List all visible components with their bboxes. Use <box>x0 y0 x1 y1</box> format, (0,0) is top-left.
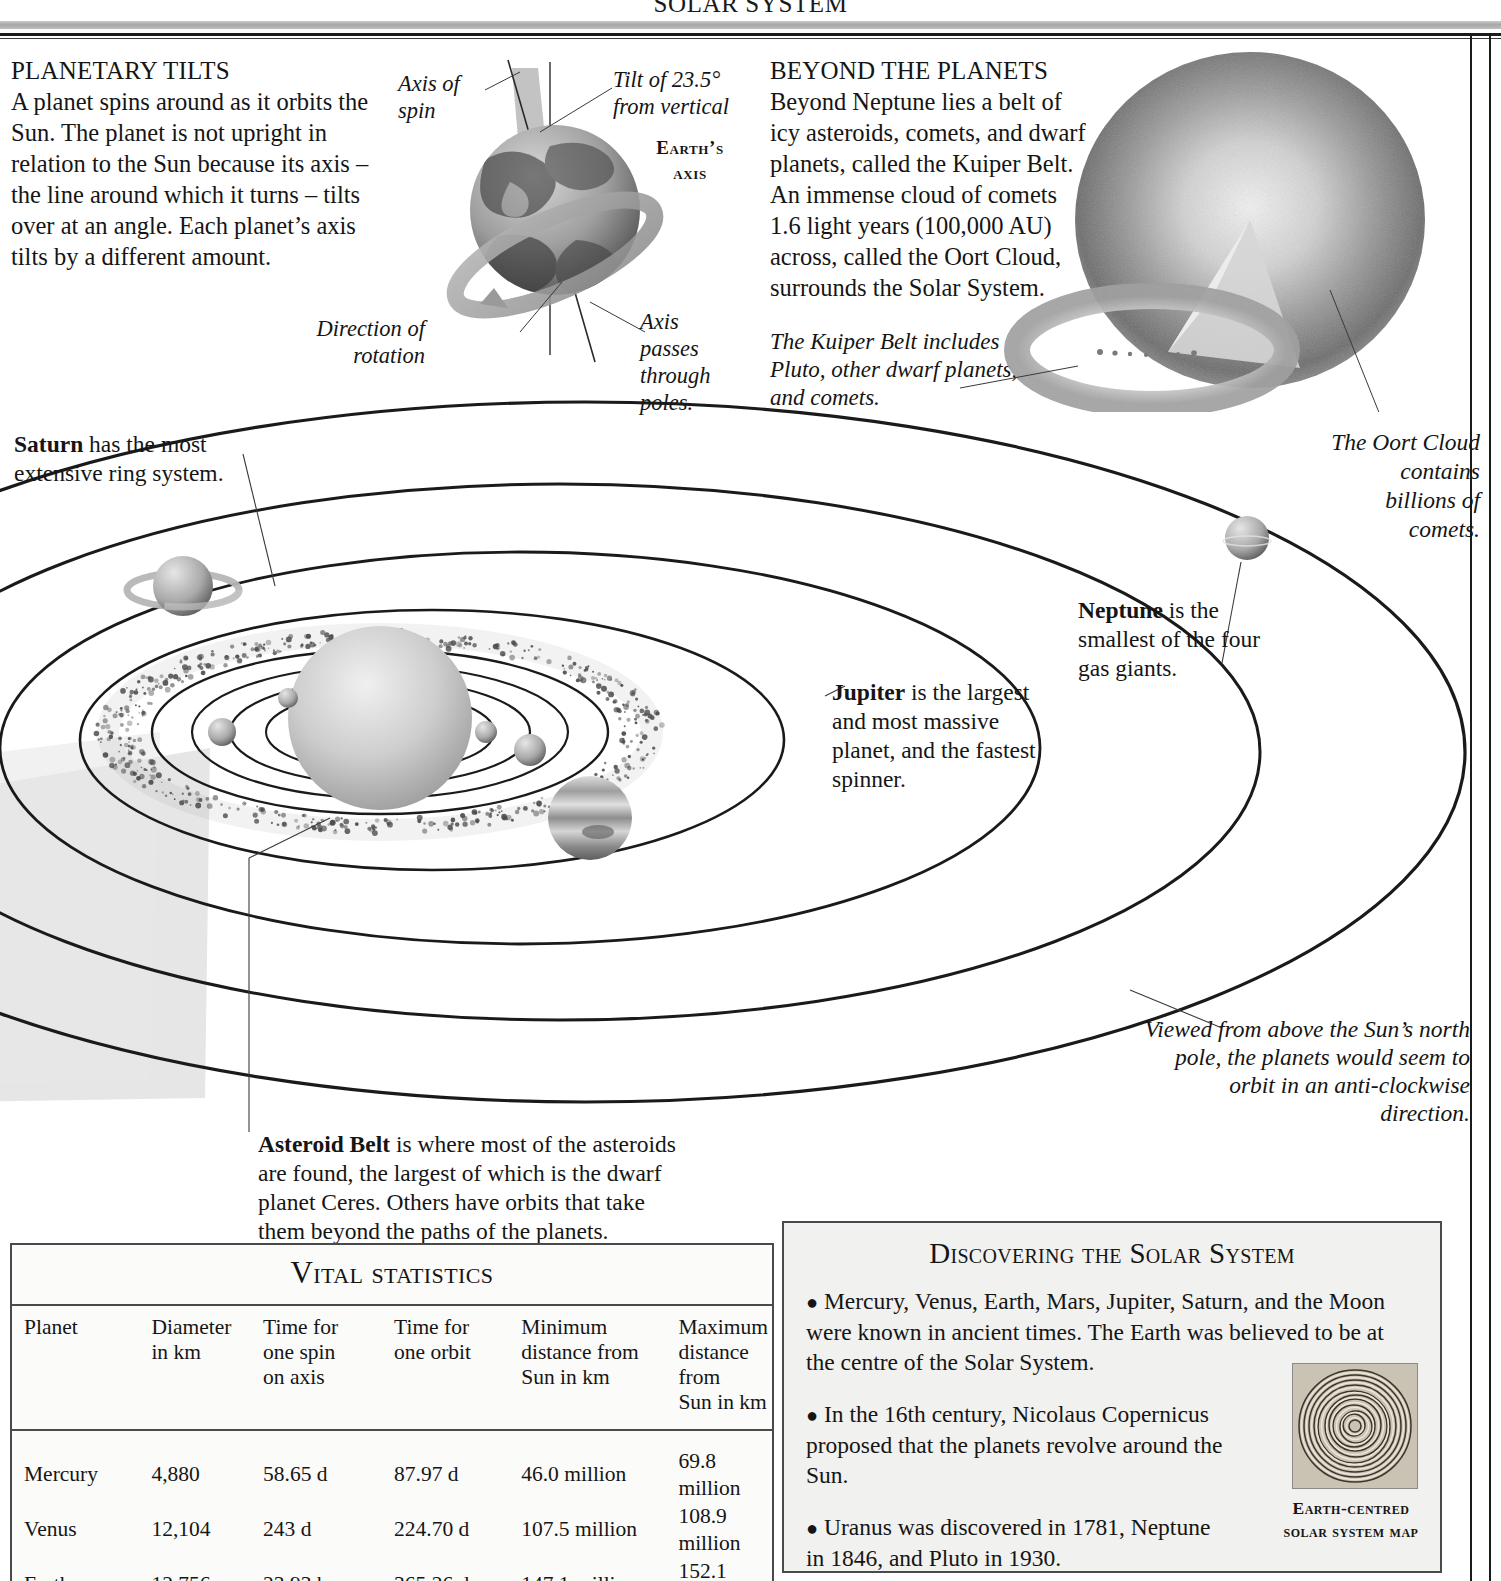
annotation-saturn-lead: Saturn <box>14 431 83 457</box>
col-header-min-distance: Minimumdistance fromSun in km <box>517 1306 674 1430</box>
bullet-dot-icon: ● <box>806 1517 818 1539</box>
table-cell: 23.93 h <box>259 1557 390 1581</box>
table-cell: 58.65 d <box>259 1430 390 1502</box>
annotation-neptune-lead: Neptune <box>1078 597 1163 623</box>
table-cell: 12,756 <box>147 1557 259 1581</box>
vital-statistics-panel: Vital statistics Planet Diameterin km Ti… <box>10 1243 774 1581</box>
col-header-line: Sun in km <box>521 1365 670 1390</box>
col-header-line: Diameter <box>151 1315 255 1340</box>
col-header-line: one spin <box>263 1340 386 1365</box>
vital-statistics-title: Vital statistics <box>12 1245 772 1306</box>
col-header-line: Time for <box>394 1315 513 1340</box>
discovering-bullet-2: ● In the 16th century, Nicolaus Copernic… <box>806 1399 1226 1490</box>
discovering-bullet-1-text: Mercury, Venus, Earth, Mars, Jupiter, Sa… <box>806 1288 1385 1375</box>
earth-centred-map-art <box>1293 1364 1417 1488</box>
page-title: SOLAR SYSTEM <box>0 0 1501 18</box>
col-header-orbit: Time forone orbit <box>390 1306 517 1430</box>
annotation-asteroid-belt: Asteroid Belt is where most of the aster… <box>258 1130 678 1246</box>
col-header-max-distance: Maximumdistance fromSun in km <box>674 1306 772 1430</box>
col-header-line: on axis <box>263 1365 386 1390</box>
table-cell: Mercury <box>12 1430 147 1502</box>
table-cell: 87.97 d <box>390 1430 517 1502</box>
annotation-jupiter: Jupiter is the largest and most massive … <box>832 678 1062 794</box>
poster-page: SOLAR SYSTEM PLANETARY TILTS A planet sp… <box>0 0 1501 1581</box>
col-header-line: Maximum <box>678 1315 768 1340</box>
label-tilt-23-5: Tilt of 23.5° from vertical <box>613 66 753 120</box>
vital-statistics-body: Mercury4,88058.65 d87.97 d46.0 million69… <box>12 1430 772 1581</box>
annotation-saturn: Saturn has the most extensive ring syste… <box>14 430 274 488</box>
table-cell: 46.0 million <box>517 1430 674 1502</box>
col-header-line: distance from <box>521 1340 670 1365</box>
page-border-right-outer <box>1489 33 1491 1581</box>
earth-centred-map-caption: Earth-centred solar system map <box>1276 1497 1426 1543</box>
table-cell: Venus <box>12 1502 147 1557</box>
table-cell: 243 d <box>259 1502 390 1557</box>
bullet-dot-icon: ● <box>806 1291 818 1313</box>
table-cell: 4,880 <box>147 1430 259 1502</box>
discovering-bullet-2-text: In the 16th century, Nicolaus Copernicus… <box>806 1401 1222 1488</box>
jupiter-body <box>548 776 632 860</box>
annotation-neptune: Neptune is the smallest of the four gas … <box>1078 596 1278 683</box>
table-cell: 365.26 d <box>390 1557 517 1581</box>
discovering-solar-system-panel: Discovering the Solar System ● Mercury, … <box>782 1221 1442 1573</box>
table-cell: 107.5 million <box>517 1502 674 1557</box>
table-cell: 224.70 d <box>390 1502 517 1557</box>
table-cell: 108.9 million <box>674 1502 772 1557</box>
table-cell: Earth <box>12 1557 147 1581</box>
col-header-line: Time for <box>263 1315 386 1340</box>
col-header-line: Sun in km <box>678 1390 768 1415</box>
col-header-line: one orbit <box>394 1340 513 1365</box>
neptune-body <box>1223 516 1271 560</box>
col-header-planet: Planet <box>12 1306 147 1430</box>
annotation-asteroid-belt-lead: Asteroid Belt <box>258 1131 390 1157</box>
col-header-diameter: Diameterin km <box>147 1306 259 1430</box>
table-cell: 147.1 million <box>517 1557 674 1581</box>
header-grey-rule <box>0 21 1501 29</box>
col-header-line: in km <box>151 1340 255 1365</box>
table-row: Venus12,104243 d224.70 d107.5 million108… <box>12 1502 772 1557</box>
table-cell: 69.8 million <box>674 1430 772 1502</box>
label-earths-axis: Earth’s axis <box>640 135 740 185</box>
col-header-line: Planet <box>24 1315 143 1340</box>
planetary-tilts-body: A planet spins around as it orbits the S… <box>11 86 386 272</box>
col-header-spin: Time forone spinon axis <box>259 1306 390 1430</box>
planetary-tilts-heading: PLANETARY TILTS <box>11 57 386 85</box>
annotation-jupiter-lead: Jupiter <box>832 679 905 705</box>
label-axis-of-spin: Axis of spin <box>398 70 488 124</box>
vital-statistics-head: Planet Diameterin km Time forone spinon … <box>12 1306 772 1430</box>
header-black-rule <box>0 33 1501 36</box>
discovering-bullet-3-text: Uranus was discovered in 1781, Neptune i… <box>806 1514 1210 1571</box>
annotation-viewed-from-above: Viewed from above the Sun’s north pole, … <box>1140 1015 1470 1127</box>
page-border-right-inner <box>1470 36 1472 1581</box>
col-header-line: distance from <box>678 1340 768 1390</box>
bullet-dot-icon: ● <box>806 1404 818 1426</box>
discovering-bullet-3: ● Uranus was discovered in 1781, Neptune… <box>806 1512 1226 1573</box>
vital-statistics-table: Planet Diameterin km Time forone spinon … <box>12 1306 772 1581</box>
table-cell: 152.1 million <box>674 1557 772 1581</box>
earth-centred-map-figure <box>1292 1363 1418 1489</box>
table-row: Earth12,75623.93 h365.26 d147.1 million1… <box>12 1557 772 1581</box>
discovering-title: Discovering the Solar System <box>806 1237 1418 1270</box>
planetary-tilts-section: PLANETARY TILTS A planet spins around as… <box>11 57 386 272</box>
label-direction-of-rotation: Direction of rotation <box>305 315 425 369</box>
col-header-line: Minimum <box>521 1315 670 1340</box>
header-thin-rule <box>0 38 1501 39</box>
table-row: Mercury4,88058.65 d87.97 d46.0 million69… <box>12 1430 772 1502</box>
table-header-row: Planet Diameterin km Time forone spinon … <box>12 1306 772 1430</box>
table-cell: 12,104 <box>147 1502 259 1557</box>
